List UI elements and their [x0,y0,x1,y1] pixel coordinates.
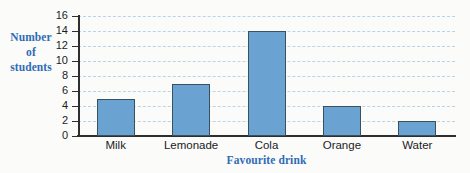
bar-cola [248,31,286,136]
y-axis-tick-label: 10 [46,54,68,66]
y-axis-tick [72,76,79,77]
y-axis-tick [72,16,79,17]
y-axis-tick-label: 8 [46,69,68,81]
category-label-water: Water [380,139,455,151]
bar-lemonade [172,84,210,137]
y-axis-tick-label: 6 [46,84,68,96]
category-label-lemonade: Lemonade [153,139,228,151]
y-axis-tick [72,61,79,62]
y-axis-tick [72,31,79,32]
y-axis-tick-label: 12 [46,39,68,51]
y-axis-tick-label: 4 [46,99,68,111]
y-axis-tick [72,91,79,92]
y-axis-tick [72,136,79,137]
bar-water [398,121,436,136]
y-axis-tick [72,106,79,107]
x-axis-title: Favourite drink [78,154,455,166]
gridline [78,16,455,17]
category-label-orange: Orange [304,139,379,151]
category-label-milk: Milk [78,139,153,151]
y-axis-tick-label: 2 [46,114,68,126]
bar-milk [97,99,135,137]
bar-chart-figure: Number of students 0246810121416 MilkLem… [0,0,470,173]
y-axis-tick [72,121,79,122]
y-axis-tick-label: 0 [46,129,68,141]
category-label-cola: Cola [229,139,304,151]
y-axis-tick-label: 16 [46,9,68,21]
bar-orange [323,106,361,136]
y-axis-tick-label: 14 [46,24,68,36]
y-axis-tick [72,46,79,47]
